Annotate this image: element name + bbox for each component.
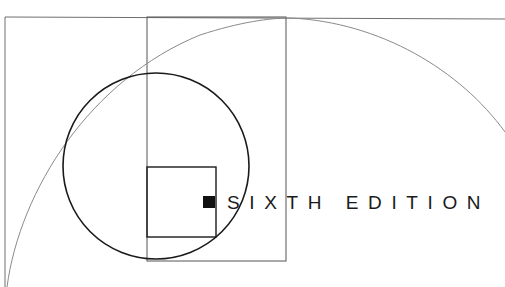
bold-circle xyxy=(63,73,249,259)
spiral-arc xyxy=(7,18,505,287)
marker-square-icon xyxy=(203,196,215,208)
book-cover-graphic: SIXTH EDITION xyxy=(0,0,505,287)
edition-title: SIXTH EDITION xyxy=(227,193,490,212)
golden-ratio-diagram xyxy=(0,0,505,287)
